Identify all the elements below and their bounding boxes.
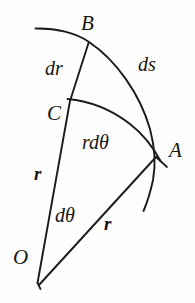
label-r-left: r — [34, 164, 41, 183]
radius-oa-overshoot — [156, 157, 167, 167]
label-dr: dr — [45, 58, 63, 78]
label-point-c: C — [47, 103, 61, 124]
label-point-o: O — [13, 247, 28, 268]
label-point-b: B — [81, 13, 94, 34]
label-point-a: A — [169, 140, 182, 161]
label-r-right: r — [104, 214, 111, 233]
geometry-figure: B dr ds C rdθ A r dθ r O — [0, 0, 195, 303]
label-ds: ds — [138, 54, 156, 74]
label-r-dtheta: rdθ — [82, 132, 109, 152]
radius-line-ob — [38, 43, 89, 283]
label-dtheta: dθ — [55, 205, 75, 225]
